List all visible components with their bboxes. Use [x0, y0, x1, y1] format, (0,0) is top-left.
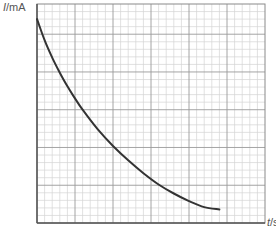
x-axis-label: t/s: [267, 216, 276, 228]
y-axis-unit: /mA: [6, 1, 26, 13]
grid-major: [37, 4, 265, 223]
y-axis-label: I/mA: [3, 1, 26, 13]
chart-area: [0, 0, 276, 232]
x-axis-unit: /s: [270, 216, 276, 228]
